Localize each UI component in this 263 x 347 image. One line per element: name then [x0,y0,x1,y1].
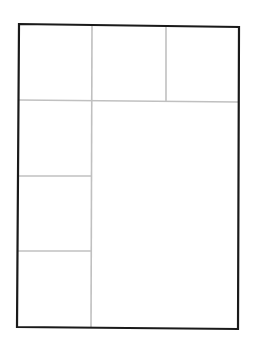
grid-line-top-row-divider-1 [91,26,92,327]
layout-grid-diagram [0,0,263,347]
grid-line-horizontal-main [19,100,238,102]
